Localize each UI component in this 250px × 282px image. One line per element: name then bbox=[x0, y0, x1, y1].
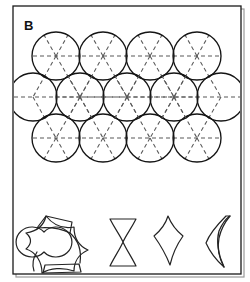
panel-label: B bbox=[24, 18, 33, 33]
figure-canvas: B bbox=[0, 0, 250, 282]
figure-panel-b: B bbox=[0, 0, 250, 282]
